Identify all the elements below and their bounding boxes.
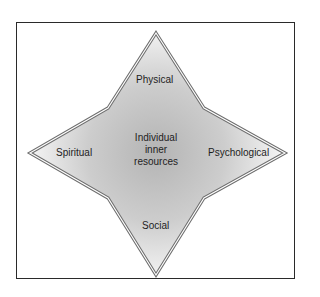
label-spiritual: Spiritual: [56, 147, 92, 159]
label-physical: Physical: [136, 74, 173, 86]
label-psychological: Psychological: [208, 147, 269, 159]
center-line-1: Individual: [121, 132, 191, 144]
center-line-2: inner: [121, 144, 191, 156]
center-line-3: resources: [121, 156, 191, 168]
label-social: Social: [142, 220, 169, 232]
label-individual-inner-resources: Individual inner resources: [121, 132, 191, 168]
